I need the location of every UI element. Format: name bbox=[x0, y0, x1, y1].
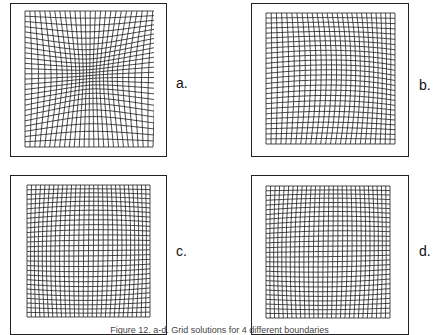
panel-c-label: c. bbox=[176, 243, 187, 259]
figure-caption: Figure 12. a-d. Grid solutions for 4 dif… bbox=[0, 325, 439, 335]
panel-d-label: d. bbox=[419, 243, 431, 259]
panel-a-label: a. bbox=[176, 75, 188, 91]
panel-c-grid bbox=[26, 184, 151, 318]
panel-b-label: b. bbox=[419, 77, 431, 93]
panel-a-grid bbox=[24, 10, 154, 148]
panel-d-grid bbox=[265, 185, 391, 319]
panel-b-grid bbox=[265, 12, 396, 145]
